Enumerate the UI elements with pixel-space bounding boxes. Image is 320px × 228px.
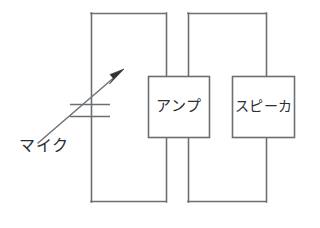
mic-label: マイク <box>19 138 69 154</box>
arrow-head-icon <box>110 69 125 84</box>
arrow-shaft <box>38 75 117 143</box>
variable-arrow <box>38 69 124 143</box>
speaker-box-label: スピーカ <box>231 99 296 113</box>
circuit-diagram-canvas: アンプ スピーカ マイク <box>0 0 320 228</box>
amp-box-label: アンプ <box>148 99 210 114</box>
